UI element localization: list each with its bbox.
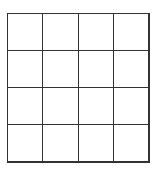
grid-cell (7, 124, 43, 162)
grid-cell (42, 13, 78, 51)
grid-cell (113, 50, 149, 88)
grid-cell (113, 124, 149, 162)
grid-cell (78, 124, 114, 162)
grid-4x4 (7, 13, 150, 163)
grid-cell (7, 87, 43, 125)
grid-cell (42, 50, 78, 88)
grid-cell (7, 13, 43, 51)
grid-cell (78, 13, 114, 51)
grid-cell (113, 87, 149, 125)
grid-cell (113, 13, 149, 51)
grid-cell (42, 87, 78, 125)
grid-cell (78, 50, 114, 88)
grid-cell (7, 50, 43, 88)
grid-cell (78, 87, 114, 125)
grid-cell (42, 124, 78, 162)
